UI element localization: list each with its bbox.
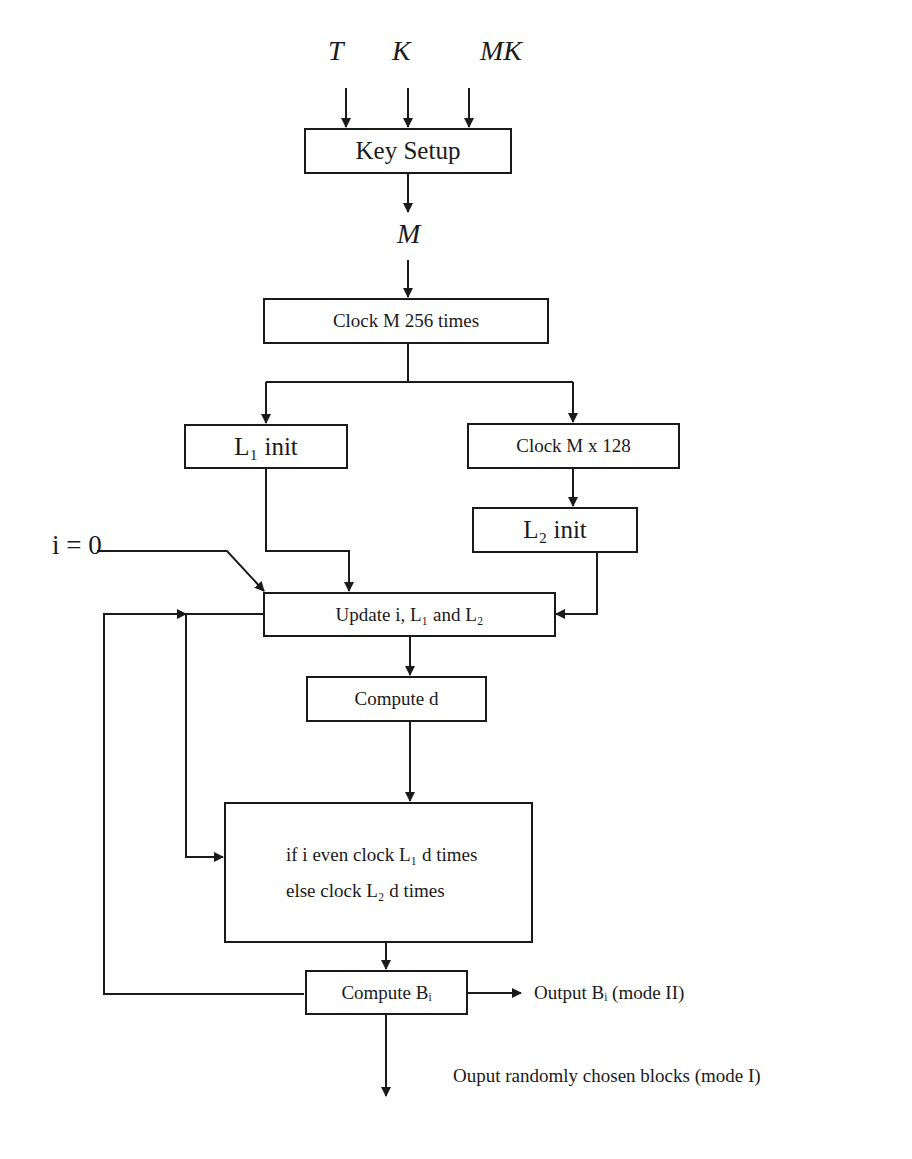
clock-m-128-box: Clock M x 128 — [467, 423, 680, 469]
clock-m-256-label: Clock M 256 times — [333, 310, 479, 332]
output-mode-2-label: Output Bᵢ (mode II) — [534, 982, 684, 1004]
output-mode-1-label: Ouput randomly chosen blocks (mode I) — [453, 1065, 761, 1087]
key-setup-label: Key Setup — [356, 137, 461, 165]
conditional-clock-line-2: else clock L₂ d times — [286, 873, 445, 909]
input-mk: MK — [480, 35, 522, 67]
update-box: Update i, L₁ and L₂ — [263, 592, 556, 637]
l1-init-box: L₁ init — [184, 424, 348, 469]
clock-m-256-box: Clock M 256 times — [263, 298, 549, 344]
i-init-label: i = 0 — [52, 530, 102, 561]
l1-init-label: L₁ init — [234, 433, 298, 461]
m-label: M — [397, 218, 420, 250]
conditional-clock-line-1: if i even clock L₁ d times — [286, 837, 477, 873]
compute-d-box: Compute d — [306, 676, 487, 722]
compute-bi-label: Compute Bᵢ — [341, 982, 431, 1004]
compute-bi-box: Compute Bᵢ — [305, 970, 468, 1015]
input-k: K — [392, 35, 411, 67]
update-label: Update i, L₁ and L₂ — [336, 604, 484, 626]
clock-m-128-label: Clock M x 128 — [516, 435, 631, 457]
input-t: T — [328, 35, 344, 67]
compute-d-label: Compute d — [355, 688, 439, 710]
l2-init-box: L₂ init — [472, 507, 638, 553]
key-setup-box: Key Setup — [304, 128, 512, 174]
l2-init-label: L₂ init — [523, 516, 587, 544]
conditional-clock-box: if i even clock L₁ d times else clock L₂… — [224, 802, 533, 943]
